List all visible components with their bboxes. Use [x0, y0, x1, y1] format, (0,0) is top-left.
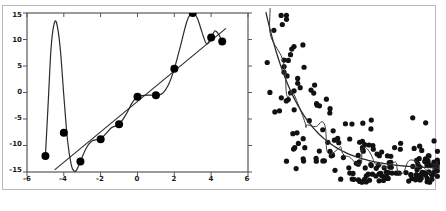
data-point [97, 135, 105, 143]
scatter-point [336, 140, 341, 145]
scatter-point [367, 178, 372, 183]
scatter-point [312, 82, 317, 87]
scatter-point [292, 107, 297, 112]
scatter-point [284, 13, 289, 18]
scatter-point [408, 172, 413, 177]
right-chart-svg [258, 0, 446, 195]
scatter-point [423, 120, 428, 125]
scatter-point [412, 146, 417, 151]
right-data-layer [265, 2, 442, 185]
figure-container: 15 10 5 0 -5 -10 -15 -6 -4 -2 0 2 4 6 [0, 0, 446, 211]
scatter-point [363, 165, 368, 170]
y-tick-10: 10 [12, 36, 22, 44]
scatter-point [279, 95, 284, 100]
data-point [207, 33, 215, 41]
scatter-point [331, 128, 336, 133]
scatter-point [301, 65, 306, 70]
scatter-point [338, 177, 343, 182]
scatter-point [302, 145, 307, 150]
scatter-point [280, 22, 285, 27]
scatter-point [386, 176, 391, 181]
scatter-point [322, 158, 327, 163]
data-point [170, 65, 178, 73]
scatter-point [324, 97, 329, 102]
scatter-point [398, 141, 403, 146]
scatter-point [369, 117, 374, 122]
scatter-point [398, 147, 403, 152]
scatter-point [410, 115, 415, 120]
scatter-point [360, 121, 365, 126]
y-tick-neg10: -10 [9, 140, 22, 148]
data-point [115, 120, 123, 128]
scatter-point [327, 106, 332, 111]
scatter-point [317, 103, 322, 108]
scatter-point [320, 127, 325, 132]
scatter-point [349, 121, 354, 126]
scatter-point [386, 170, 391, 175]
scatter-point [289, 47, 294, 52]
scatter-point [388, 154, 393, 159]
scatter-point [300, 42, 305, 47]
scatter-point [425, 179, 430, 184]
data-point [60, 129, 68, 137]
data-point [218, 38, 226, 46]
overfit-polynomial-curve [45, 13, 222, 171]
scatter-point [292, 145, 297, 150]
x-tick-2: 2 [172, 175, 177, 183]
right-chart-panel [258, 0, 446, 195]
left-data-layer [41, 9, 226, 171]
y-tick-5: 5 [17, 62, 22, 70]
scatter-point [317, 148, 322, 153]
scatter-point [360, 139, 365, 144]
left-chart-svg: 15 10 5 0 -5 -10 -15 -6 -4 -2 0 2 4 6 [0, 0, 258, 195]
data-point [41, 152, 49, 160]
data-point [76, 157, 84, 165]
right-scatter-points [265, 13, 442, 185]
scatter-point [298, 85, 303, 90]
scatter-point [392, 145, 397, 150]
scatter-point [290, 131, 295, 136]
scatter-point [374, 166, 379, 171]
scatter-point [279, 13, 284, 18]
scatter-point [350, 176, 355, 181]
scatter-point [368, 126, 373, 131]
x-tick-neg4: -4 [59, 175, 67, 183]
scatter-point [295, 81, 300, 86]
scatter-point [419, 148, 424, 153]
scatter-point [265, 60, 270, 65]
scatter-point [288, 52, 293, 57]
scatter-point [272, 109, 277, 114]
scatter-point [373, 173, 378, 178]
scatter-point [332, 138, 337, 143]
scatter-point [413, 177, 418, 182]
scatter-point [271, 28, 276, 33]
scatter-point [286, 58, 291, 63]
x-tick-neg6: -6 [23, 175, 31, 183]
scatter-point [435, 174, 440, 179]
scatter-point [356, 177, 361, 182]
scatter-point [374, 152, 379, 157]
scatter-point [286, 97, 291, 102]
scatter-point [350, 171, 355, 176]
x-tick-6: 6 [245, 175, 250, 183]
scatter-point [301, 136, 306, 141]
scatter-point [277, 108, 282, 113]
scatter-point [418, 177, 423, 182]
scatter-point [313, 156, 318, 161]
y-tick-15: 15 [12, 11, 22, 19]
y-tick-0: 0 [17, 88, 22, 96]
scatter-point [435, 149, 440, 154]
y-tick-neg15: -15 [9, 166, 22, 174]
x-tick-0: 0 [135, 175, 140, 183]
data-point [189, 9, 197, 17]
scatter-point [296, 141, 301, 146]
scatter-point [267, 90, 272, 95]
scatter-point [295, 76, 300, 81]
scatter-point [294, 166, 299, 171]
x-tick-neg2: -2 [96, 175, 104, 183]
scatter-point [347, 136, 352, 141]
y-tick-neg5: -5 [14, 114, 22, 122]
scatter-point [431, 138, 436, 143]
data-point [152, 91, 160, 99]
scatter-point [308, 88, 313, 93]
